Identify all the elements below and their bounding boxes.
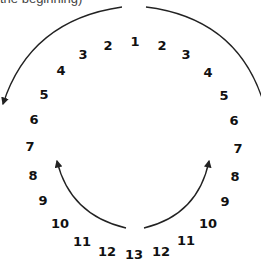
number-label: 3 (78, 48, 87, 61)
number-label: 7 (233, 142, 242, 155)
number-label: 4 (56, 64, 65, 77)
number-label: 10 (199, 217, 217, 230)
number-label: 3 (181, 48, 190, 61)
number-label: 6 (229, 114, 238, 127)
number-label: 11 (177, 234, 195, 247)
number-label: 6 (29, 113, 38, 126)
number-label: 5 (219, 89, 228, 102)
number-label: 4 (203, 66, 212, 79)
number-label: 12 (98, 245, 116, 258)
number-label: 8 (230, 170, 239, 183)
number-label: 2 (157, 39, 166, 52)
counting-circle-diagram: the beginning) 1234567891011121323456789… (0, 0, 261, 267)
outer-right-arc (146, 7, 261, 98)
number-label: 12 (152, 245, 170, 258)
number-label: 5 (39, 88, 48, 101)
number-label: 10 (51, 217, 69, 230)
number-label: 2 (103, 39, 112, 52)
number-label: 9 (220, 195, 229, 208)
number-label: 9 (38, 194, 47, 207)
number-label: 8 (28, 169, 37, 182)
number-label: 13 (125, 248, 143, 261)
number-label: 7 (25, 140, 34, 153)
number-label: 11 (73, 235, 91, 248)
outer-left-arrow (3, 7, 122, 104)
number-label: 1 (130, 35, 139, 48)
